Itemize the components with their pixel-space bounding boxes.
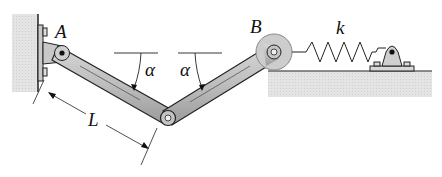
label-pin-b: B (250, 16, 262, 37)
pin-a (55, 46, 70, 61)
wall (12, 14, 38, 92)
bar-left (52, 46, 172, 124)
mechanism-diagram: A B k α α L (0, 0, 442, 177)
label-length: L (87, 109, 99, 130)
label-angle-left: α (145, 59, 156, 80)
spring (292, 42, 386, 62)
label-spring-constant: k (336, 17, 345, 38)
wheel-b (256, 34, 292, 70)
pin-middle (161, 111, 176, 126)
label-angle-right: α (180, 59, 191, 80)
ground (268, 71, 432, 97)
label-pin-a: A (53, 21, 67, 42)
